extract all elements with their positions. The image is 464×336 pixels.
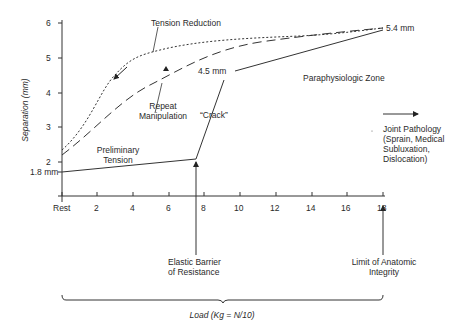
x-tick-14: 14 [306, 203, 315, 213]
y-tick-4: 4 [46, 88, 51, 98]
label-limit-anatomic: Limit of Anatomic Integrity [348, 257, 420, 277]
series-dotted-line [62, 28, 383, 150]
x-tick-12: 12 [270, 203, 279, 213]
label-4-5mm: 4.5 mm [198, 66, 226, 76]
x-ticks [62, 192, 383, 196]
label-joint-line2: (Sprain, Medical [383, 134, 444, 144]
x-tick-4: 4 [130, 203, 135, 213]
load-brace [62, 295, 383, 303]
x-tick-2: 2 [94, 203, 99, 213]
label-joint-pathology: Joint Pathology (Sprain, Medical Subluxa… [383, 124, 444, 164]
y-tick-3: 3 [46, 122, 51, 132]
x-tick-18: 18 [377, 203, 386, 213]
label-elastic-barrier: Elastic Barrier of Resistance [168, 257, 221, 277]
label-5-4mm: 5.4 mm [386, 23, 414, 33]
leader-tension-reduction [153, 27, 158, 52]
x-tick-6: 6 [166, 203, 171, 213]
x-tick-10: 10 [234, 203, 243, 213]
label-crack: “Crack” [200, 110, 228, 120]
label-repeat-line1: Repeat [132, 101, 194, 111]
x-tick-8: 8 [201, 203, 206, 213]
y-ticks [58, 23, 62, 172]
label-joint-line3: Subluxation, [383, 144, 444, 154]
label-elastic-line1: Elastic Barrier [168, 257, 221, 267]
label-prelim-line1: Preliminary [88, 145, 148, 155]
label-elastic-line2: of Resistance [168, 267, 221, 277]
label-joint-line1: Joint Pathology [383, 124, 444, 134]
series-dashed-line [62, 28, 383, 155]
label-paraphysiologic-zone: Paraphysiologic Zone [303, 73, 385, 83]
label-limit-line1: Limit of Anatomic [348, 257, 420, 267]
x-tick-16: 16 [341, 203, 350, 213]
label-repeat-manipulation: Repeat Manipulation [132, 101, 194, 121]
y-tick-2: 2 [46, 157, 51, 167]
label-repeat-line2: Manipulation [132, 111, 194, 121]
x-tick-rest: Rest [53, 203, 70, 213]
label-preliminary-tension: Preliminary Tension [88, 145, 148, 165]
y-tick-6: 6 [46, 18, 51, 28]
y-axis-label: Separation (mm) [20, 75, 30, 145]
y-label-1-8mm: 1.8 mm [30, 167, 58, 177]
label-limit-line2: Integrity [348, 267, 420, 277]
label-tension-reduction: Tension Reduction [151, 18, 221, 28]
stray-dot [371, 130, 372, 131]
label-prelim-line2: Tension [88, 155, 148, 165]
chart-canvas [0, 0, 464, 336]
y-tick-5: 5 [46, 53, 51, 63]
label-joint-line4: Dislocation) [383, 154, 444, 164]
x-axis-label: Load (Kg = N/10) [172, 310, 272, 320]
triangle-marker [163, 66, 169, 71]
